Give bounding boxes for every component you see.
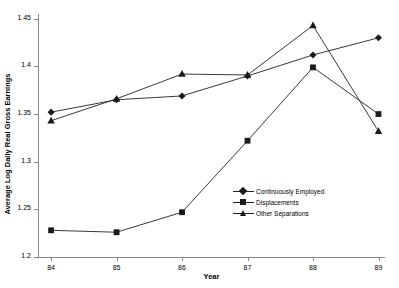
y-tick-label: 1.4 [21,61,31,68]
plot-area: 1.21.251.31.351.41.45 848586878889 [38,14,385,258]
y-tick-label: 1.25 [17,204,31,211]
series-layer [38,14,385,258]
x-tick-label: 87 [244,264,252,271]
y-tick-label: 1.2 [21,252,31,259]
y-tick-label: 1.3 [21,157,31,164]
legend: Continuously EmployedDisplacementsOther … [233,186,324,219]
y-tick-label: 1.45 [17,14,31,21]
data-series [48,34,382,115]
x-tick-label: 88 [309,264,317,271]
y-tick-label: 1.35 [17,109,31,116]
legend-item-label: Other Separations [256,209,309,218]
x-axis-title: Year [38,272,385,281]
legend-marker-square-icon [233,198,254,207]
line-chart: Average Log Daily Real Gross Earnings 1.… [0,0,399,288]
legend-item[interactable]: Other Separations [233,208,324,219]
data-series [48,64,381,235]
x-tick-label: 86 [178,264,186,271]
legend-item-label: Continuously Employed [256,187,324,196]
legend-item[interactable]: Continuously Employed [233,186,324,197]
legend-marker-triangle-icon [233,209,254,218]
legend-item[interactable]: Displacements [233,197,324,208]
legend-marker-diamond-icon [233,187,254,196]
legend-item-label: Displacements [256,198,299,207]
y-axis-title: Average Log Daily Real Gross Earnings [0,0,14,288]
x-tick-label: 89 [375,264,383,271]
x-tick-label: 85 [113,264,121,271]
x-tick-label: 84 [47,264,55,271]
data-series [47,22,382,135]
